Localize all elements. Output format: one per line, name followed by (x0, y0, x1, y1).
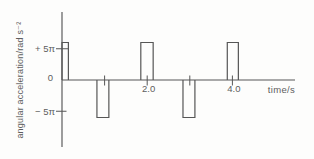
angular-acceleration-time-graph: 2.04.0+ 5π0− 5π (0, 0, 314, 159)
x-tick-label: 4.0 (227, 83, 240, 94)
pulse-rect (141, 43, 153, 81)
pulse-rect (62, 43, 68, 81)
y-tick-label: 0 (48, 72, 53, 83)
y-tick-label: − 5π (35, 106, 55, 117)
pulse-rect (227, 43, 238, 81)
pulse-rect (183, 80, 195, 118)
figure-canvas: angular acceleration/rad s⁻² time/s 2.04… (0, 0, 314, 159)
pulse-rect (97, 80, 109, 118)
y-tick-label: + 5π (35, 43, 55, 54)
x-tick-label: 2.0 (142, 83, 155, 94)
